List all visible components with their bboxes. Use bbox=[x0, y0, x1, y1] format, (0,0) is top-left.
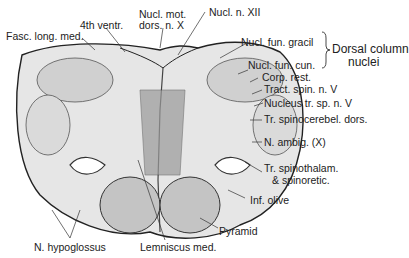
label-nucleus-tr-sp-n-v: Nucleus tr. sp. n. V bbox=[264, 98, 352, 109]
label-nucl-fun-cun: Nucl. fun. cun. bbox=[248, 60, 315, 71]
label-lemniscus-med: Lemniscus med. bbox=[140, 242, 216, 253]
label-spinoretic: & spinoretic. bbox=[272, 175, 330, 186]
label-tract-spin-n-v: Tract. spin. n. V bbox=[264, 84, 337, 95]
label-inf-olive: Inf. olive bbox=[250, 195, 289, 206]
label-n-hypoglossus: N. hypoglossus bbox=[34, 242, 106, 253]
label-dorsal-column: Dorsal column bbox=[332, 44, 409, 55]
label-pyramid: Pyramid bbox=[219, 226, 258, 237]
label-tr-spinothalam: Tr. spinothalam. bbox=[264, 163, 338, 174]
label-fasc-long-med: Fasc. long. med. bbox=[6, 31, 84, 42]
label-n-ambig: N. ambig. (X) bbox=[264, 137, 326, 148]
label-nucl-n-xii: Nucl. n. XII bbox=[209, 7, 260, 18]
label-nucl-mot-line2: dors. n. X bbox=[139, 20, 184, 31]
label-tr-spinocerebel-dors: Tr. spinocerebel. dors. bbox=[264, 114, 368, 125]
label-4th-ventricle: 4th ventr. bbox=[80, 20, 123, 31]
label-dorsal-column-nuclei: nuclei bbox=[348, 57, 379, 68]
label-corp-rest: Corp. rest. bbox=[262, 72, 311, 83]
label-nucl-fun-gracil: Nucl. fun. gracil bbox=[241, 37, 313, 48]
